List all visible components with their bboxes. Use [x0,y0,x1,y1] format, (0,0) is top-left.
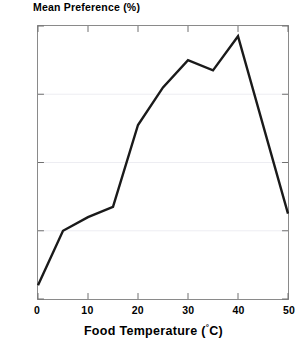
x-tick-label: 30 [168,304,208,316]
chart-figure: Mean Preference (%) 020406080 0102030405… [0,0,307,348]
plot-area [37,25,289,300]
x-axis-title-main: Food Temperature ( [84,324,206,338]
x-axis-title-unit: C) [209,324,223,338]
x-tick-label: 40 [219,304,259,316]
data-line [38,26,288,299]
x-tick-label: 20 [118,304,158,316]
x-tick-label: 0 [17,304,57,316]
x-axis-title: Food Temperature (°C) [0,324,307,338]
y-axis-title: Mean Preference (%) [33,1,140,13]
x-tick-label: 10 [67,304,107,316]
x-tick-label: 50 [269,304,307,316]
